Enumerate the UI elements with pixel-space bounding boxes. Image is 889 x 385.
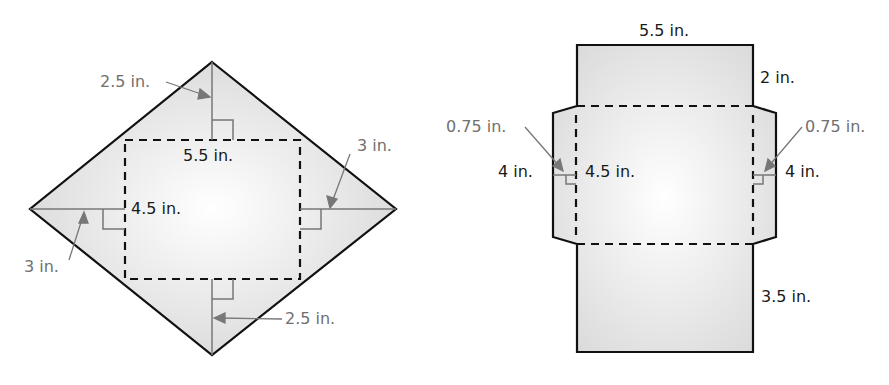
envelope-bottom-flap-height-label: 3.5 in. <box>761 288 811 306</box>
diagram-canvas <box>0 0 889 385</box>
envelope-top-width-label: 5.5 in. <box>639 22 689 40</box>
envelope-right-tab-height-label: 0.75 in. <box>805 118 865 136</box>
pyramid-net <box>30 62 396 355</box>
pyramid-bottom-height-label: 2.5 in. <box>285 310 335 328</box>
envelope-left-tab-base-label: 4 in. <box>498 163 533 181</box>
pyramid-base-length-label: 5.5 in. <box>183 147 233 165</box>
pyramid-right-height-label: 3 in. <box>357 137 392 155</box>
envelope-middle-height-label: 4.5 in. <box>585 163 635 181</box>
envelope-net-outline <box>553 45 776 352</box>
pyramid-base-width-label: 4.5 in. <box>131 200 181 218</box>
envelope-top-flap-height-label: 2 in. <box>760 69 795 87</box>
envelope-left-tab-height-label: 0.75 in. <box>446 118 506 136</box>
pyramid-left-height-label: 3 in. <box>24 258 59 276</box>
pyramid-top-height-label: 2.5 in. <box>100 73 150 91</box>
envelope-right-tab-base-label: 4 in. <box>785 163 820 181</box>
